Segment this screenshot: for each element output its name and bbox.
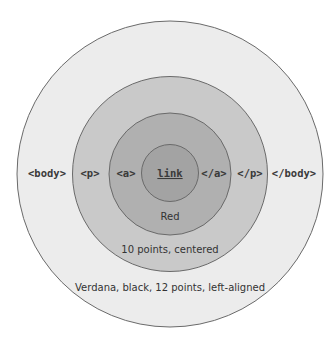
a-open-tag: <a>: [117, 167, 136, 179]
nested-circles-diagram: <body> <p> <a> link </a> </p> </body> Re…: [0, 0, 335, 341]
body-close-tag: </body>: [272, 167, 316, 179]
p-open-tag: <p>: [81, 167, 100, 179]
a-caption: Red: [161, 211, 180, 222]
body-caption: Verdana, black, 12 points, left-aligned: [75, 282, 265, 293]
link-text: link: [157, 167, 183, 179]
p-close-tag: </p>: [237, 167, 262, 179]
body-open-tag: <body>: [28, 167, 66, 179]
p-caption: 10 points, centered: [121, 244, 218, 255]
a-close-tag: </a>: [201, 167, 226, 179]
